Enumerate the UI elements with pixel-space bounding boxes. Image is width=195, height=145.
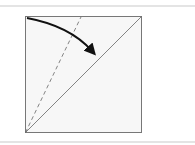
fold-diagram: [0, 0, 195, 145]
